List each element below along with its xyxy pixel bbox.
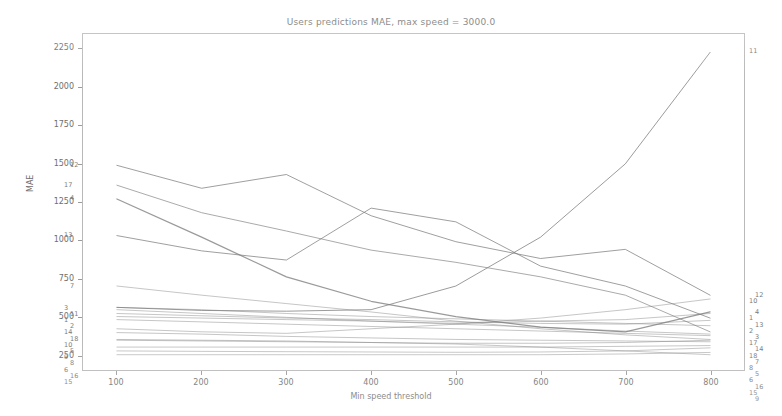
- series-label-left-11: 11: [70, 311, 78, 318]
- series-line-11: [117, 52, 710, 311]
- x-tick-800: 800: [691, 378, 731, 387]
- plot-area: [82, 33, 745, 371]
- x-tick-mark: [286, 371, 287, 375]
- series-label-left-6: 6: [64, 367, 68, 374]
- chart-figure: Users predictions MAE, max speed = 3000.…: [0, 0, 782, 416]
- y-tick-1500: 1500: [30, 159, 74, 168]
- x-tick-mark: [711, 371, 712, 375]
- series-label-left-12: 12: [70, 162, 78, 169]
- chart-title: Users predictions MAE, max speed = 3000.…: [0, 17, 782, 27]
- x-tick-mark: [541, 371, 542, 375]
- series-label-left-9: 9: [64, 354, 68, 361]
- x-tick-mark: [116, 371, 117, 375]
- x-tick-mark: [201, 371, 202, 375]
- series-label-right-4: 4: [755, 309, 759, 316]
- series-label-left-13: 13: [64, 232, 72, 239]
- x-tick-500: 500: [436, 378, 476, 387]
- series-line-13: [117, 208, 710, 318]
- y-tick-2000: 2000: [30, 82, 74, 91]
- series-label-left-8: 8: [70, 360, 74, 367]
- series-label-right-6: 6: [749, 377, 753, 384]
- x-tick-700: 700: [606, 378, 646, 387]
- series-line-4: [117, 199, 710, 332]
- series-label-left-5: 5: [70, 348, 74, 355]
- series-label-right-5: 5: [755, 371, 759, 378]
- series-label-left-1: 1: [64, 317, 68, 324]
- series-label-right-11: 11: [749, 48, 757, 55]
- series-label-left-4: 4: [70, 195, 74, 202]
- series-label-left-17: 17: [64, 182, 72, 189]
- series-label-right-9: 9: [755, 396, 759, 403]
- series-label-right-13: 13: [755, 322, 763, 329]
- y-tick-750: 750: [30, 274, 74, 283]
- series-line-6: [117, 346, 710, 348]
- x-tick-mark: [456, 371, 457, 375]
- x-tick-100: 100: [96, 378, 136, 387]
- series-line-15: [117, 352, 710, 354]
- series-line-12: [117, 165, 710, 295]
- x-axis-label: Min speed threshold: [0, 392, 782, 401]
- x-tick-mark: [371, 371, 372, 375]
- series-label-left-7: 7: [70, 283, 74, 290]
- series-label-right-10: 10: [749, 298, 757, 305]
- series-label-right-2: 2: [749, 328, 753, 335]
- series-lines: [83, 34, 744, 370]
- y-tick-1750: 1750: [30, 120, 74, 129]
- y-tick-1250: 1250: [30, 197, 74, 206]
- series-label-left-15: 15: [64, 379, 72, 386]
- series-label-right-8: 8: [749, 365, 753, 372]
- series-label-right-1: 1: [749, 315, 753, 322]
- x-tick-600: 600: [521, 378, 561, 387]
- x-tick-mark: [626, 371, 627, 375]
- x-tick-300: 300: [266, 378, 306, 387]
- series-line-16: [117, 348, 710, 352]
- y-tick-2250: 2250: [30, 43, 74, 52]
- x-tick-400: 400: [351, 378, 391, 387]
- series-label-right-7: 7: [755, 359, 759, 366]
- y-axis-label: MAE: [26, 175, 35, 192]
- series-label-left-3: 3: [64, 305, 68, 312]
- x-tick-200: 200: [181, 378, 221, 387]
